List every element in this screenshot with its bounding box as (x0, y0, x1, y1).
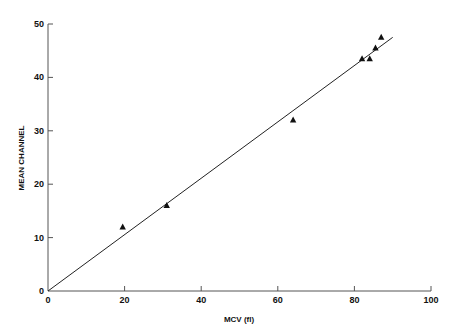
x-tick-label: 100 (423, 295, 438, 305)
triangle-marker-icon (378, 34, 384, 40)
x-tick-label: 0 (45, 295, 50, 305)
y-tick-label: 10 (34, 233, 44, 243)
x-tick-label: 60 (273, 295, 283, 305)
x-axis-title: MCV (fl) (224, 315, 255, 324)
y-tick-label: 20 (34, 179, 44, 189)
fit-line (48, 37, 393, 291)
y-tick-label: 30 (34, 126, 44, 136)
data-points (119, 34, 384, 230)
x-tick-label: 20 (120, 295, 130, 305)
scatter-chart: 02040608010001020304050 MCV (fl) MEAN CH… (0, 0, 455, 335)
y-axis-title: MEAN CHANNEL (17, 125, 26, 190)
x-tick-label: 40 (196, 295, 206, 305)
x-tick-label: 80 (349, 295, 359, 305)
triangle-marker-icon (290, 117, 296, 123)
y-tick-label: 0 (39, 286, 44, 296)
regression-line (48, 37, 393, 291)
y-tick-label: 40 (34, 72, 44, 82)
axes: 02040608010001020304050 (34, 19, 439, 305)
triangle-marker-icon (119, 223, 125, 229)
triangle-marker-icon (372, 45, 378, 51)
y-tick-label: 50 (34, 19, 44, 29)
